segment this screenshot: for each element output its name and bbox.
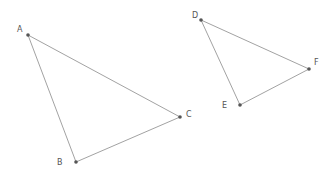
label-e: E [222, 101, 227, 110]
point-f [307, 67, 311, 71]
diagram-canvas: A B C D E F [0, 0, 335, 176]
triangle-def: D E F [192, 11, 319, 110]
triangle-def-outline [201, 20, 309, 105]
label-f: F [314, 58, 319, 67]
point-e [238, 103, 242, 107]
point-d [199, 18, 203, 22]
label-d: D [192, 11, 198, 20]
point-b [74, 160, 78, 164]
point-c [178, 115, 182, 119]
triangle-abc-outline [28, 35, 180, 162]
label-a: A [17, 25, 23, 34]
label-c: C [186, 110, 192, 119]
point-a [26, 33, 30, 37]
label-b: B [57, 158, 63, 167]
triangle-abc: A B C [17, 25, 192, 167]
